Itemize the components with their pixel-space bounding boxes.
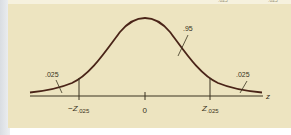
cutoff-label-right: .025	[268, 0, 278, 3]
left-tail-area-label: .025	[45, 71, 59, 78]
x-axis-label: z	[265, 92, 270, 101]
pos-critical-label: Z.025	[201, 104, 219, 114]
right-tail-area-label: .025	[236, 71, 250, 78]
tick-label-zero: 0	[143, 106, 148, 115]
normal-curve	[30, 18, 262, 93]
neg-critical-label: −Z.025	[68, 104, 90, 114]
center-area-label: .95	[183, 25, 193, 32]
cutoff-label-left: .025	[218, 0, 228, 3]
normal-distribution-chart: .025 .025 z 0 −Z.025 Z.025 .025 .025 .95	[0, 0, 291, 135]
